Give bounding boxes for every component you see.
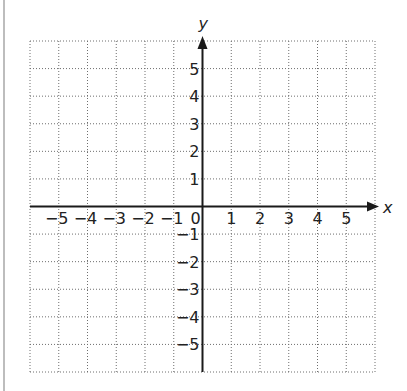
x-axis-label: x	[382, 198, 393, 217]
y-tick-label: −3	[176, 280, 200, 299]
y-tick-label: 5	[189, 60, 199, 79]
x-tick-label: 5	[341, 209, 351, 228]
x-axis-arrow-icon	[367, 202, 379, 212]
y-axis-arrow-icon	[198, 36, 208, 49]
y-tick-label: 2	[189, 142, 199, 161]
y-tick-label: 1	[189, 170, 199, 189]
y-tick-label: −1	[176, 225, 200, 244]
y-tick-label: −5	[176, 335, 200, 354]
coordinate-plane: −5−4−3−2−1012345 54321−1−2−3−4−5 x y	[0, 0, 407, 391]
x-tick-label: 4	[312, 209, 322, 228]
x-tick-label: 1	[226, 209, 236, 228]
x-tick-label: 3	[284, 209, 294, 228]
y-tick-label: 3	[189, 115, 199, 134]
y-tick-label: −4	[176, 308, 200, 327]
x-tick-label: −2	[131, 209, 155, 228]
axes	[30, 36, 379, 372]
x-tick-label: 2	[255, 209, 265, 228]
x-tick-label: −5	[45, 209, 69, 228]
y-tick-label: −2	[176, 253, 200, 272]
y-tick-label: 4	[189, 87, 199, 106]
x-tick-label: −4	[74, 209, 98, 228]
y-axis-label: y	[198, 14, 209, 33]
x-tick-label: −3	[102, 209, 126, 228]
